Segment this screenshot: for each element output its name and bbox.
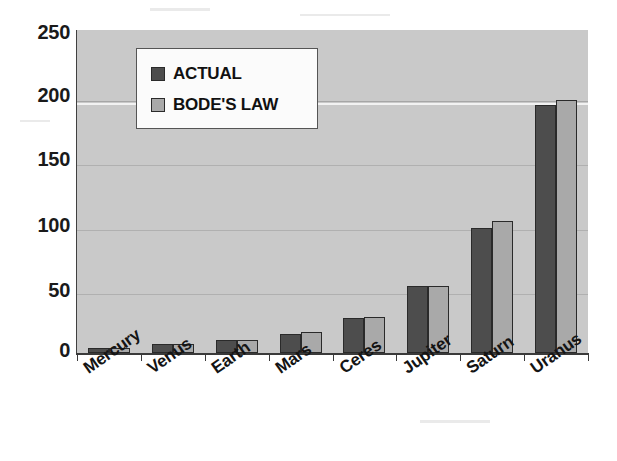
legend-label-actual: ACTUAL [173, 64, 242, 84]
y-tick-label-200: 200 [4, 84, 70, 107]
x-tick [460, 354, 461, 361]
y-tick-label-250: 250 [4, 21, 70, 44]
x-tick [77, 354, 78, 361]
legend-item-actual: ACTUAL [151, 58, 317, 89]
y-tick-label-100: 100 [4, 214, 70, 237]
legend-swatch-bodes-law-icon [151, 98, 165, 112]
bar-uranus-bodes-law [556, 100, 577, 353]
x-tick [205, 354, 206, 361]
bar-saturn-actual [471, 228, 492, 353]
x-tick [269, 354, 270, 361]
x-tick [588, 354, 589, 361]
y-axis-line [76, 30, 77, 354]
legend-item-bodes-law: BODE'S LAW [151, 89, 317, 120]
bar-group [471, 30, 513, 353]
y-tick-label-50: 50 [4, 279, 70, 302]
bar-group [88, 30, 130, 353]
bar-group [407, 30, 449, 353]
legend-swatch-actual-icon [151, 67, 165, 81]
y-axis-tick-labels: 250 200 150 100 50 0 [0, 0, 70, 461]
legend-label-bodes-law: BODE'S LAW [173, 95, 278, 115]
scan-artifact [150, 8, 210, 11]
scan-artifact [300, 14, 390, 16]
bar-group [343, 30, 385, 353]
y-tick-label-0: 0 [4, 339, 70, 362]
x-tick [141, 354, 142, 361]
chart-legend: ACTUAL BODE'S LAW [136, 48, 318, 129]
x-tick [396, 354, 397, 361]
bar-uranus-actual [535, 105, 556, 353]
scan-artifact [420, 420, 490, 423]
y-tick-label-150: 150 [4, 148, 70, 171]
bar-group [535, 30, 577, 353]
x-tick [333, 354, 334, 361]
x-tick [524, 354, 525, 361]
bode-law-bar-chart: 250 200 150 100 50 0 MercuryVenusEarthMa… [0, 0, 617, 461]
